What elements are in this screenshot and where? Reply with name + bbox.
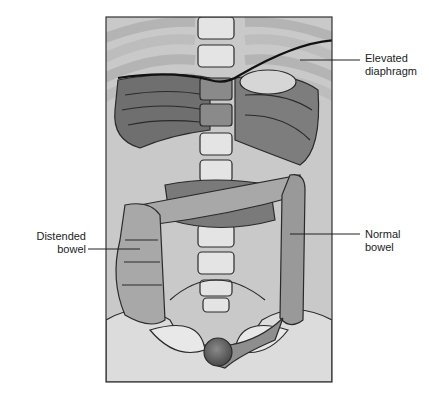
- label-line: bowel: [8, 243, 86, 256]
- label-elevated-diaphragm: Elevated diaphragm: [365, 52, 417, 78]
- label-line: Normal: [365, 228, 400, 241]
- label-normal-bowel: Normal bowel: [365, 228, 400, 254]
- label-line: Distended: [8, 230, 86, 243]
- label-line: diaphragm: [365, 65, 417, 78]
- label-line: Elevated: [365, 52, 417, 65]
- label-distended-bowel: Distended bowel: [8, 230, 86, 256]
- label-line: bowel: [365, 241, 400, 254]
